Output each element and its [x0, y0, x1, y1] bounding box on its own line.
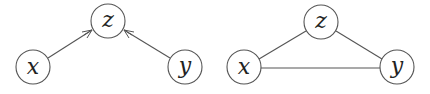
node-label: z [314, 8, 327, 33]
arrowhead-icon [82, 30, 92, 38]
node-y: y [380, 50, 414, 84]
node-x: x [16, 50, 50, 84]
node-z: z [304, 5, 338, 39]
edge-x-z [259, 31, 306, 59]
edge-z-y [336, 31, 382, 59]
arrowhead-icon [124, 30, 134, 38]
node-label: y [390, 53, 404, 78]
node-label: z [101, 7, 114, 32]
node-label: x [27, 54, 40, 79]
node-label: y [178, 53, 192, 78]
node-label: x [238, 54, 251, 79]
node-z: z [91, 4, 125, 38]
node-x: x [227, 50, 261, 84]
undirected-graph: x z y [227, 5, 414, 84]
directed-graph: x z y [16, 4, 202, 84]
node-y: y [168, 50, 202, 84]
graph-diagrams: x z y x z y [0, 0, 430, 94]
